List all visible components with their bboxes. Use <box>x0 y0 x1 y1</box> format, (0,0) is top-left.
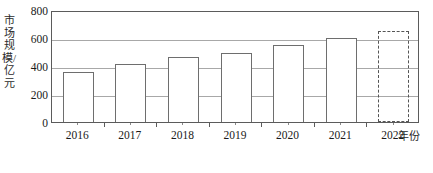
bar-2021 <box>326 38 357 122</box>
bar-2019 <box>221 53 252 122</box>
x-axis-tick <box>314 123 315 127</box>
x-axis-tick-label: 2016 <box>54 128 100 142</box>
x-axis-tick-label: 2019 <box>212 128 258 142</box>
x-axis-minor-tick <box>288 123 289 125</box>
y-axis-tick-label: 200 <box>18 90 48 101</box>
y-axis-tick-label: 800 <box>18 6 48 17</box>
plot-area <box>51 11 419 123</box>
x-axis-tick <box>156 123 157 127</box>
y-axis-title: 市场规模/亿元 <box>2 14 16 89</box>
y-axis-tick-label: 0 <box>18 118 48 129</box>
x-axis-tick-label: 2018 <box>159 128 205 142</box>
x-axis-title: 年份 <box>398 130 420 143</box>
y-axis-tick-label: 600 <box>18 34 48 45</box>
x-axis-minor-tick <box>77 123 78 125</box>
bar-chart: 市场规模/亿元 0200400600800 201620172018201920… <box>0 0 433 173</box>
x-axis-tick-label: 2017 <box>107 128 153 142</box>
x-axis-tick <box>366 123 367 127</box>
x-axis-tick-labels: 2016201720182019202020212022 <box>51 128 419 146</box>
bar-2016 <box>63 72 94 122</box>
x-axis-tick <box>104 123 105 127</box>
y-axis-tick-labels: 0200400600800 <box>16 0 48 173</box>
x-axis-minor-tick <box>235 123 236 125</box>
x-axis-tick-label: 2020 <box>265 128 311 142</box>
x-axis-tick <box>209 123 210 127</box>
bar-2020 <box>273 45 304 122</box>
y-axis-tick-label: 400 <box>18 62 48 73</box>
x-axis-tick-label: 2021 <box>317 128 363 142</box>
x-axis-tick <box>261 123 262 127</box>
bar-2017 <box>115 64 146 122</box>
x-axis-minor-tick <box>340 123 341 125</box>
bar-2022 <box>378 31 409 122</box>
x-axis-minor-tick <box>182 123 183 125</box>
bar-2018 <box>168 57 199 122</box>
bar-series <box>52 12 418 122</box>
x-axis-minor-tick <box>130 123 131 125</box>
x-axis-minor-tick <box>393 123 394 125</box>
